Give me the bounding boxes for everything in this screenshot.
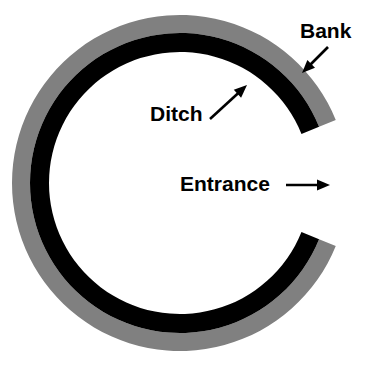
bank-arrow-line xyxy=(310,47,328,65)
footer-artifact xyxy=(36,363,336,370)
entrance-arrow-head xyxy=(317,180,330,191)
annotation-entrance: Entrance xyxy=(180,172,330,195)
ditch-ring xyxy=(30,33,319,333)
ditch-label: Ditch xyxy=(150,102,203,125)
annotation-bank: Bank xyxy=(300,19,352,73)
henge-figure-svg: Bank Ditch Entrance xyxy=(0,0,370,371)
bank-ring xyxy=(12,15,336,351)
entrance-label: Entrance xyxy=(180,172,270,195)
henge-diagram: Bank Ditch Entrance xyxy=(0,0,370,371)
ditch-arrow-line xyxy=(210,92,239,119)
bank-label: Bank xyxy=(300,19,352,42)
annotation-ditch: Ditch xyxy=(150,85,247,125)
